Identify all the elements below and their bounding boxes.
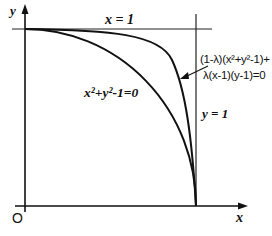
plot-canvas: [0, 0, 272, 236]
y-axis-arrow-icon: [22, 4, 29, 14]
blend-equation-line1: (1-λ)(x²+y²-1)+: [200, 54, 270, 66]
blend-curve: [25, 29, 196, 206]
x-axis-label: x: [236, 211, 243, 225]
vertical-line-label: y = 1: [202, 107, 228, 120]
pointer-arrow-icon: [180, 72, 189, 79]
blend-equation-line2: λ(x-1)(y-1)=0: [203, 70, 265, 82]
y-axis-label: y: [10, 4, 16, 17]
circle-equation-label: x²+y²-1=0: [84, 86, 138, 100]
horizontal-line-label: x = 1: [105, 13, 134, 27]
origin-label: O: [12, 211, 23, 225]
x-axis-arrow-icon: [238, 203, 248, 210]
